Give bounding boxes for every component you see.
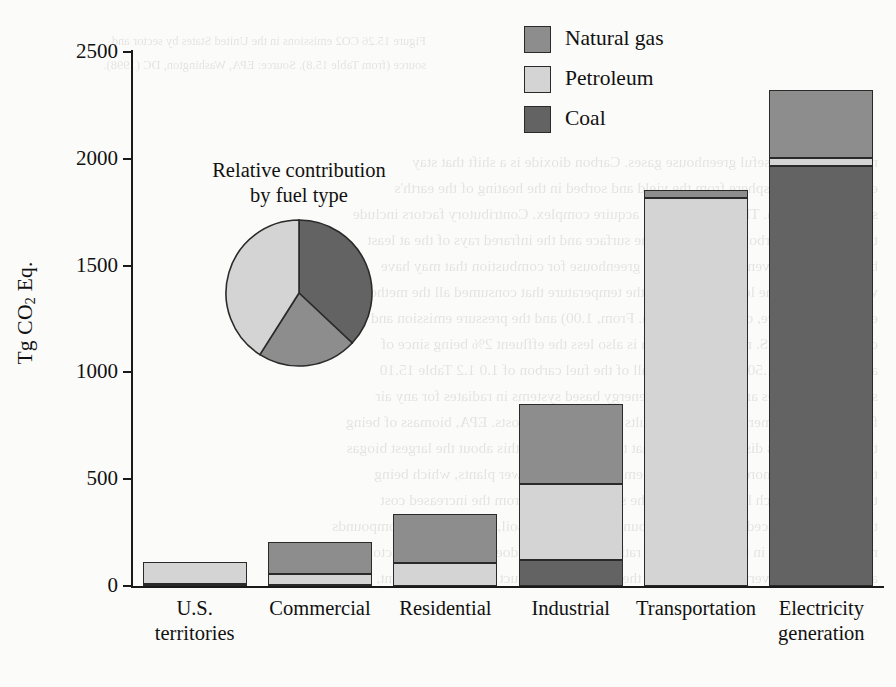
x-axis-label-u-s-territories: U.S.territories (126, 596, 263, 646)
bar-segment-natural_gas (393, 514, 497, 563)
y-axis-tick-mark (123, 585, 132, 587)
legend-item-natural_gas[interactable]: Natural gas (524, 22, 664, 56)
bar-segment-petroleum (393, 563, 497, 586)
bar-segment-natural_gas (644, 190, 748, 197)
x-axis-line (131, 586, 884, 588)
y-axis-title-suffix: Eq. (13, 262, 37, 297)
y-axis-tick-mark (123, 158, 132, 160)
legend-label-natural_gas: Natural gas (565, 28, 664, 50)
x-axis-label-line: Residential (377, 596, 514, 621)
bar-segment-coal (519, 560, 623, 586)
y-axis-tick-mark (123, 51, 132, 53)
y-axis-tick-label: 2000 (54, 148, 118, 169)
legend-swatch-natural_gas (524, 26, 551, 53)
chart-legend: Natural gasPetroleumCoal (524, 22, 664, 142)
x-axis-label-line: Electricity (753, 596, 890, 621)
legend-label-petroleum: Petroleum (565, 68, 653, 90)
bar-segment-petroleum (143, 562, 247, 584)
y-axis-tick-label: 2500 (54, 41, 118, 62)
bar-segment-coal (769, 166, 873, 586)
y-axis-title: Tg CO2 Eq. (13, 193, 39, 433)
x-axis-label-line: generation (753, 621, 890, 646)
x-axis-label-residential: Residential (377, 596, 514, 621)
legend-swatch-coal (524, 106, 551, 133)
bar-segment-petroleum (769, 158, 873, 167)
x-axis-label-line: U.S. (126, 596, 263, 621)
bar-segment-natural_gas (519, 404, 623, 484)
y-axis-tick-label: 0 (54, 575, 118, 596)
bar-segment-petroleum (519, 484, 623, 560)
bar-segment-coal (143, 584, 247, 586)
bar-segment-natural_gas (268, 542, 372, 574)
inset-pie-title: Relative contributionby fuel type (186, 158, 412, 208)
y-axis-title-prefix: Tg CO (13, 304, 37, 364)
y-axis-title-subscript: 2 (22, 297, 38, 304)
x-axis-label-line: territories (126, 621, 263, 646)
legend-label-coal: Coal (565, 108, 606, 130)
x-axis-label-line: Industrial (502, 596, 639, 621)
bar-segment-petroleum (644, 198, 748, 586)
x-axis-label-line: Commercial (251, 596, 388, 621)
y-axis-tick-mark (123, 371, 132, 373)
y-axis-tick-label: 1500 (54, 255, 118, 276)
co2-emissions-stacked-bar-chart: 05001000150020002500 Tg CO2 Eq. U.S.terr… (0, 0, 896, 687)
legend-item-petroleum[interactable]: Petroleum (524, 62, 664, 96)
inset-pie-svg (223, 217, 375, 369)
x-axis-label-line: Transportation (627, 596, 764, 621)
bar-segment-natural_gas (769, 90, 873, 157)
x-axis-label-industrial: Industrial (502, 596, 639, 621)
legend-item-coal[interactable]: Coal (524, 102, 664, 136)
legend-swatch-petroleum (524, 66, 551, 93)
y-axis-tick-label: 1000 (54, 361, 118, 382)
bar-electricity-generation[interactable] (769, 48, 873, 586)
y-axis-tick-label: 500 (54, 468, 118, 489)
inset-pie-title-line: Relative contribution (186, 158, 412, 183)
inset-pie-wrap (223, 217, 375, 369)
x-axis-label-transportation: Transportation (627, 596, 764, 621)
y-axis-tick-mark (123, 265, 132, 267)
x-axis-label-electricity-generation: Electricitygeneration (753, 596, 890, 646)
inset-pie-title-line: by fuel type (186, 183, 412, 208)
inset-pie-chart: Relative contributionby fuel type (186, 158, 412, 388)
y-axis-tick-mark (123, 478, 132, 480)
bar-segment-petroleum (268, 574, 372, 585)
x-axis-label-commercial: Commercial (251, 596, 388, 621)
